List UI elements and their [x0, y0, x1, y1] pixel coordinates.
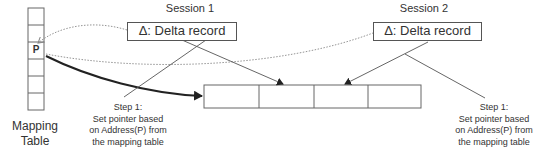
session1-delta-record-box: Δ: Delta record	[127, 22, 237, 41]
session2-step1-line1: Step 1:	[444, 102, 542, 114]
pointer-p-label: P	[28, 44, 44, 55]
session1-title: Session 1	[150, 2, 230, 14]
session2-step1-line2: Set pointer based	[444, 114, 542, 126]
session2-title: Session 2	[384, 2, 464, 14]
record-chain	[204, 85, 421, 108]
session1-step1-line1: Step 1:	[78, 102, 178, 114]
session2-step1-line4: the mapping table	[444, 137, 542, 149]
session1-step1-note: Step 1: Set pointer based on Address(P) …	[78, 102, 178, 148]
session2-step1-line3: on Address(P) from	[444, 125, 542, 137]
dotted-arrow-session1-to-p	[38, 25, 127, 43]
step1-line-session1	[124, 40, 206, 97]
session1-step1-line3: on Address(P) from	[78, 125, 178, 137]
bold-arrow-p-to-chain	[46, 56, 202, 96]
session1-step1-line2: Set pointer based	[78, 114, 178, 126]
mapping-table-label: Mapping Table	[2, 119, 68, 149]
mapping-table	[28, 8, 44, 110]
arrow-session2-to-chain	[345, 42, 428, 84]
session1-step1-line4: the mapping table	[78, 137, 178, 149]
session2-step1-note: Step 1: Set pointer based on Address(P) …	[444, 102, 542, 148]
mapping-table-label-line1: Mapping	[2, 119, 68, 134]
mapping-table-label-line2: Table	[2, 134, 68, 149]
session2-delta-record-box: Δ: Delta record	[373, 22, 482, 41]
